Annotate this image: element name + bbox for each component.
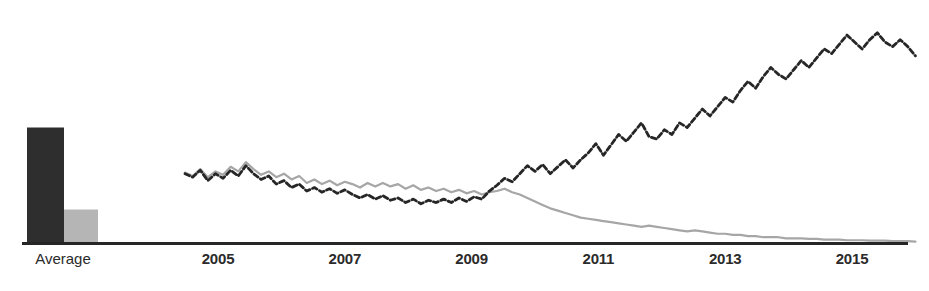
series-group xyxy=(185,33,915,242)
bar-dark-average xyxy=(27,128,64,244)
x-tick-2013: 2013 xyxy=(709,250,742,267)
chart-plot-area xyxy=(0,0,929,291)
x-tick-2015: 2015 xyxy=(836,250,869,267)
category-label-average: Average xyxy=(35,250,91,267)
x-tick-2007: 2007 xyxy=(329,250,362,267)
bar-light-average xyxy=(64,210,98,244)
chart-figure: 200520072009201120132015 Average xyxy=(0,0,929,291)
x-tick-2005: 2005 xyxy=(202,250,235,267)
bars-group xyxy=(27,128,98,244)
x-tick-2011: 2011 xyxy=(583,250,615,267)
x-tick-2009: 2009 xyxy=(455,250,488,267)
